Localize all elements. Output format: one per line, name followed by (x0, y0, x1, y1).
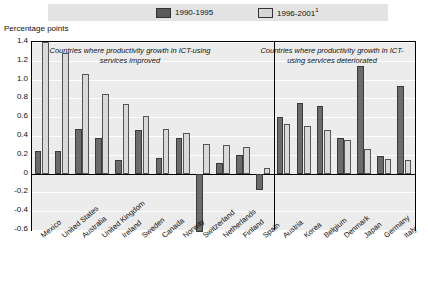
bar (344, 140, 351, 174)
y-axis-title: Percentage points (4, 24, 69, 33)
bar (264, 168, 271, 174)
bar (277, 117, 284, 173)
bar (163, 129, 170, 173)
y-tick-label: 0 (2, 169, 28, 177)
bar (183, 133, 190, 173)
bar (304, 126, 311, 174)
bar (297, 103, 304, 174)
bar (82, 74, 89, 174)
bar (55, 151, 62, 174)
gridline (32, 192, 415, 193)
y-tick-label: -0.4 (2, 206, 28, 214)
bar (102, 94, 109, 174)
bar (324, 130, 331, 173)
y-tick-label: -0.6 (2, 225, 28, 233)
bar (397, 86, 404, 173)
panel-divider (274, 42, 275, 230)
legend-item-1996-2001: 1996-20011 (258, 4, 319, 21)
light-swatch-icon (258, 8, 273, 18)
bar (143, 116, 150, 173)
legend: 1990-1995 1996-20011 (48, 4, 388, 21)
y-tick-label: 1.2 (2, 56, 28, 64)
bar (75, 129, 82, 173)
y-tick-label: 0.6 (2, 112, 28, 120)
bar (243, 147, 250, 173)
bar (284, 124, 291, 174)
bar (236, 155, 243, 174)
y-tick-label: 0.2 (2, 150, 28, 158)
bar (256, 174, 263, 190)
legend-label-1990-1995: 1990-1995 (175, 8, 213, 17)
bar (176, 138, 183, 174)
bar (135, 130, 142, 173)
dark-swatch-icon (156, 8, 171, 18)
bar (357, 66, 364, 174)
zero-axis-line (32, 174, 415, 175)
y-tick-label: 0.8 (2, 93, 28, 101)
legend-item-1990-1995: 1990-1995 (156, 4, 213, 21)
y-tick-label: 1.0 (2, 75, 28, 83)
bar (385, 159, 392, 174)
legend-footnote-marker: 1 (315, 7, 318, 13)
y-tick-label: 1.4 (2, 37, 28, 45)
bar (223, 145, 230, 173)
bar (123, 104, 130, 174)
bar (156, 158, 163, 174)
bar (62, 53, 69, 173)
bar (95, 138, 102, 174)
bar (115, 160, 122, 174)
y-tick-label: -0.2 (2, 187, 28, 195)
gridline (32, 42, 415, 43)
bar (35, 151, 42, 174)
bar (203, 144, 210, 173)
panel-caption-right-text: Countries where productivity growth in I… (252, 46, 412, 66)
y-tick-label: 0.4 (2, 131, 28, 139)
panel-caption-left-text: Countries where productivity growth in I… (42, 46, 218, 66)
bar (377, 156, 384, 174)
bar (337, 138, 344, 174)
bar (364, 149, 371, 173)
bar (216, 163, 223, 173)
bar (317, 106, 324, 174)
legend-label-1996-2001: 1996-20011 (277, 7, 319, 18)
bar (405, 160, 412, 173)
chart-plot-area (31, 41, 416, 231)
